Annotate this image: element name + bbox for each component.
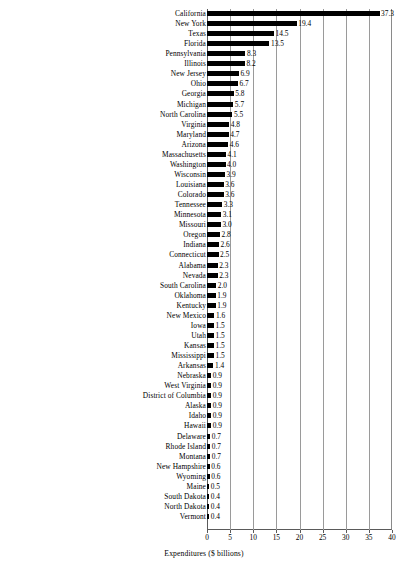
category-label: New York [175, 19, 206, 29]
bar [207, 263, 218, 268]
bar-row: Alabama2.3 [0, 261, 408, 271]
bar [207, 293, 216, 298]
category-label: Montana [179, 452, 206, 462]
category-label: Minnesota [174, 210, 206, 220]
category-label: Arizona [181, 140, 206, 150]
bar-value-label: 3.0 [222, 220, 231, 230]
bar-row: Massachusetts4.1 [0, 150, 408, 160]
bar-value-label: 5.7 [235, 100, 244, 110]
bar [207, 393, 211, 398]
bar-value-label: 8.2 [246, 59, 255, 69]
bar-value-label: 37.3 [381, 9, 394, 19]
category-label: Colorado [178, 190, 206, 200]
category-label: Illinois [184, 59, 206, 69]
bar-row: New Hampshire0.6 [0, 462, 408, 472]
category-label: Arkansas [178, 361, 206, 371]
bar [207, 11, 380, 16]
bar-row: District of Columbia0.9 [0, 391, 408, 401]
bar-value-label: 4.7 [230, 130, 239, 140]
bar [207, 21, 297, 26]
bar-value-label: 5.8 [235, 89, 244, 99]
bar [207, 122, 229, 127]
category-label: Nevada [183, 271, 206, 281]
bar-value-label: 0.5 [211, 482, 220, 492]
bar-row: Montana0.7 [0, 452, 408, 462]
bar [207, 112, 232, 117]
category-label: Hawaii [184, 421, 206, 431]
bar-value-label: 0.9 [213, 391, 222, 401]
category-label: Texas [188, 29, 206, 39]
bar-row: Oregon2.8 [0, 230, 408, 240]
x-tick-label: 5 [220, 533, 240, 542]
category-label: California [175, 9, 206, 19]
category-label: Wisconsin [174, 170, 206, 180]
bar-row: Maine0.5 [0, 482, 408, 492]
bar-row: New Mexico1.6 [0, 311, 408, 321]
category-label: Florida [184, 39, 206, 49]
category-label: Utah [191, 331, 206, 341]
bar-value-label: 1.5 [215, 321, 224, 331]
bar-row: Pennsylvania8.3 [0, 49, 408, 59]
category-label: Vermont [180, 512, 206, 522]
category-label: District of Columbia [143, 391, 206, 401]
category-label: Ohio [191, 79, 206, 89]
bar-value-label: 0.4 [211, 502, 220, 512]
category-label: Nebraska [177, 371, 206, 381]
bar [207, 444, 210, 449]
bar-value-label: 1.5 [215, 351, 224, 361]
bar-value-label: 4.0 [227, 160, 236, 170]
bar-value-label: 3.1 [223, 210, 232, 220]
bar-row: Maryland4.7 [0, 130, 408, 140]
category-label: Georgia [182, 89, 206, 99]
bar-value-label: 0.7 [212, 452, 221, 462]
bar [207, 202, 222, 207]
bar-value-label: 0.9 [213, 421, 222, 431]
bar-value-label: 1.4 [215, 361, 224, 371]
bar [207, 454, 210, 459]
bar-row: Alaska0.9 [0, 401, 408, 411]
x-tick-label: 30 [336, 533, 356, 542]
bar-value-label: 0.9 [213, 371, 222, 381]
bar-value-label: 1.9 [217, 291, 226, 301]
bar-row: Kansas1.5 [0, 341, 408, 351]
bar-value-label: 3.9 [227, 170, 236, 180]
bar-row: Minnesota3.1 [0, 210, 408, 220]
bar-value-label: 4.6 [230, 140, 239, 150]
bar-value-label: 2.8 [221, 230, 230, 240]
bar [207, 273, 218, 278]
bar-row: Mississippi1.5 [0, 351, 408, 361]
bar [207, 514, 209, 519]
category-label: Missouri [179, 220, 206, 230]
category-label: Alaska [185, 401, 206, 411]
bar [207, 192, 224, 197]
bar-row: Arizona4.6 [0, 140, 408, 150]
category-label: Kansas [184, 341, 206, 351]
bar-value-label: 8.3 [247, 49, 256, 59]
bar [207, 242, 219, 247]
bar-row: Virginia4.8 [0, 120, 408, 130]
bar-row: Oklahoma1.9 [0, 291, 408, 301]
bar-row: Hawaii0.9 [0, 421, 408, 431]
bar-value-label: 3.3 [224, 200, 233, 210]
bar-row: Utah1.5 [0, 331, 408, 341]
bar-value-label: 2.5 [220, 250, 229, 260]
bar [207, 494, 209, 499]
category-label: Idaho [189, 411, 206, 421]
bar [207, 162, 226, 167]
bar-value-label: 5.5 [234, 110, 243, 120]
bar-value-label: 6.9 [240, 69, 249, 79]
bar-row: Missouri3.0 [0, 220, 408, 230]
bar [207, 343, 214, 348]
bar-value-label: 0.6 [211, 462, 220, 472]
bar-value-label: 1.6 [216, 311, 225, 321]
bar [207, 283, 216, 288]
bar [207, 313, 214, 318]
bar [207, 252, 219, 257]
bar-row: Georgia5.8 [0, 89, 408, 99]
bar-value-label: 0.7 [212, 432, 221, 442]
category-label: West Virginia [164, 381, 206, 391]
category-label: Massachusetts [162, 150, 206, 160]
category-label: New Jersey [171, 69, 206, 79]
bar-row: Tennessee3.3 [0, 200, 408, 210]
bar-row: Rhode Island0.7 [0, 442, 408, 452]
